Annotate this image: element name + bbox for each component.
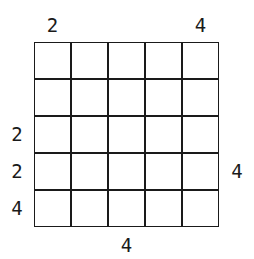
clue-top-2 bbox=[71, 13, 108, 37]
grid-cell-r3c2[interactable] bbox=[71, 116, 108, 153]
grid-cell-r3c5[interactable] bbox=[182, 116, 219, 153]
clue-right-1 bbox=[222, 48, 252, 72]
grid-cell-r3c4[interactable] bbox=[145, 116, 182, 153]
clue-left-2 bbox=[2, 85, 32, 109]
clue-bottom-5 bbox=[182, 233, 219, 257]
grid-cell-r1c1[interactable] bbox=[34, 42, 71, 79]
grid-cell-r2c4[interactable] bbox=[145, 79, 182, 116]
grid-cell-r4c5[interactable] bbox=[182, 153, 219, 190]
grid-cell-r2c3[interactable] bbox=[108, 79, 145, 116]
clue-left-1 bbox=[2, 48, 32, 72]
grid-cell-r2c2[interactable] bbox=[71, 79, 108, 116]
grid-cell-r2c5[interactable] bbox=[182, 79, 219, 116]
grid-cell-r1c2[interactable] bbox=[71, 42, 108, 79]
grid-cell-r1c4[interactable] bbox=[145, 42, 182, 79]
clue-left-4: 2 bbox=[2, 159, 32, 183]
clue-right-5 bbox=[222, 196, 252, 220]
clue-bottom-3: 4 bbox=[108, 233, 145, 257]
grid-cell-r1c5[interactable] bbox=[182, 42, 219, 79]
puzzle-grid bbox=[34, 42, 219, 227]
grid-cell-r5c4[interactable] bbox=[145, 190, 182, 227]
grid-cell-r2c1[interactable] bbox=[34, 79, 71, 116]
grid-cell-r1c3[interactable] bbox=[108, 42, 145, 79]
clue-right-4: 4 bbox=[222, 159, 252, 183]
grid-cell-r5c5[interactable] bbox=[182, 190, 219, 227]
grid-cell-r4c2[interactable] bbox=[71, 153, 108, 190]
clue-top-5: 4 bbox=[182, 13, 219, 37]
clue-bottom-2 bbox=[71, 233, 108, 257]
clue-top-4 bbox=[145, 13, 182, 37]
grid-cell-r3c1[interactable] bbox=[34, 116, 71, 153]
clue-left-3: 2 bbox=[2, 122, 32, 146]
grid-cell-r5c1[interactable] bbox=[34, 190, 71, 227]
clue-left-5: 4 bbox=[2, 196, 32, 220]
grid-cell-r4c4[interactable] bbox=[145, 153, 182, 190]
grid-cell-r3c3[interactable] bbox=[108, 116, 145, 153]
clue-bottom-1 bbox=[34, 233, 71, 257]
grid-cell-r5c2[interactable] bbox=[71, 190, 108, 227]
grid-cell-r4c3[interactable] bbox=[108, 153, 145, 190]
clue-bottom-4 bbox=[145, 233, 182, 257]
grid-cell-r5c3[interactable] bbox=[108, 190, 145, 227]
clue-right-2 bbox=[222, 85, 252, 109]
clue-top-1: 2 bbox=[34, 13, 71, 37]
clue-top-3 bbox=[108, 13, 145, 37]
grid-cell-r4c1[interactable] bbox=[34, 153, 71, 190]
clue-right-3 bbox=[222, 122, 252, 146]
